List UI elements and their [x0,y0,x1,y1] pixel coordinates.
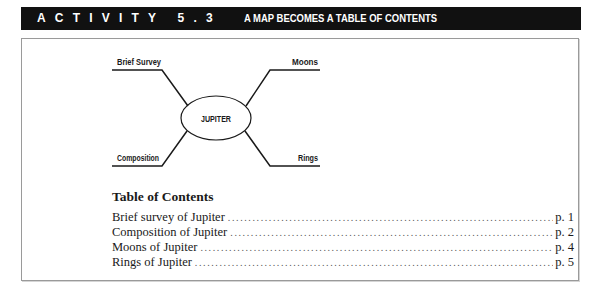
branch-line-moons [246,70,320,106]
toc-list: Brief survey of Jupiter p. 1 Composition… [112,210,574,270]
branch-label-moons: Moons [292,56,318,67]
toc-leader-dots [230,225,553,240]
toc-entry-page: p. 5 [553,255,574,270]
toc-entry: Moons of Jupiter p. 4 [112,240,574,255]
toc-heading: Table of Contents [112,189,214,205]
branch-line-brief-survey [112,70,188,106]
toc-leader-dots [200,240,553,255]
toc-entry-title: Composition of Jupiter [112,225,230,240]
toc-entry: Rings of Jupiter p. 5 [112,255,574,270]
toc-entry: Composition of Jupiter p. 2 [112,225,574,240]
toc-entry-title: Moons of Jupiter [112,240,200,255]
toc-entry-page: p. 4 [553,240,574,255]
toc-entry-page: p. 2 [553,225,574,240]
branch-label-brief-survey: Brief Survey [117,56,162,67]
toc-leader-dots [228,210,553,225]
toc-entry-page: p. 1 [553,210,574,225]
toc-leader-dots [195,255,553,270]
branch-label-rings: Rings [298,152,318,163]
toc-entry-title: Rings of Jupiter [112,255,195,270]
branch-label-composition: Composition [117,152,159,163]
toc-entry: Brief survey of Jupiter p. 1 [112,210,574,225]
center-node-label: JUPITER [201,113,231,124]
toc-entry-title: Brief survey of Jupiter [112,210,228,225]
